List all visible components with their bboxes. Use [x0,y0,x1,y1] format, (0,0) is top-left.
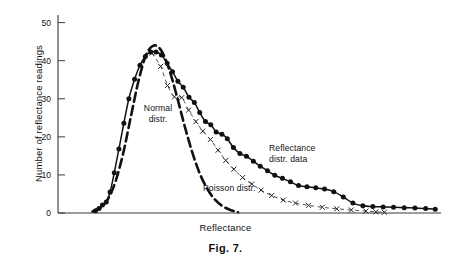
data-point [272,173,277,178]
reflectance-data-points [93,49,438,213]
y-axis-ticks [58,23,65,213]
poisson-x-marker [231,167,236,172]
data-point [214,129,219,134]
plot-area [0,0,451,266]
annotation-poisson-distr: Poisson distr. [203,183,256,194]
data-point [296,183,301,188]
data-point [154,49,159,54]
poisson-x-marker [165,83,170,88]
poisson-x-marker [382,210,387,215]
data-point [137,63,142,68]
poisson-x-marker [172,94,177,99]
data-point [170,69,175,74]
data-point [104,199,109,204]
data-point [280,176,285,181]
data-point [350,201,355,206]
data-point [225,136,230,141]
data-point [322,187,327,192]
data-point [192,100,197,105]
data-point [181,85,186,90]
data-point [304,184,309,189]
data-point [251,159,256,164]
data-point [381,204,386,209]
data-point [244,154,249,159]
reflectance-fit-curve [96,51,436,210]
data-point [143,54,148,59]
data-point [203,119,208,124]
data-point [313,185,318,190]
data-point [148,49,153,54]
data-point [391,205,396,210]
data-point [132,77,137,82]
poisson-x-marker [281,198,286,203]
data-point [186,95,191,100]
data-point [165,61,170,66]
data-point [402,205,407,210]
data-point [433,207,438,212]
data-point [219,132,224,137]
figure-container: Number of reflectance readings Reflectan… [0,0,451,266]
annotation-reflectance-distr-data: Reflectance distr. data [269,143,315,164]
data-point [175,79,180,84]
data-point [288,179,293,184]
data-point [126,96,131,101]
data-point [360,203,365,208]
poisson-distribution-markers [149,51,386,215]
poisson-x-marker [179,95,184,100]
poisson-x-marker [200,129,205,134]
data-point [197,110,202,115]
poisson-x-marker [216,148,221,153]
data-point [231,145,236,150]
data-point [258,164,263,169]
data-point [121,121,126,126]
poisson-x-marker [258,188,263,193]
data-point [423,206,428,211]
data-point [208,122,213,127]
data-point [116,147,121,152]
data-point [112,170,117,175]
data-point [108,190,113,195]
data-point [370,204,375,209]
data-point [341,195,346,200]
poisson-x-marker [208,137,213,142]
data-point [159,52,164,57]
data-point [237,151,242,156]
data-point [265,168,270,173]
data-point [331,189,336,194]
poisson-x-marker [240,175,245,180]
data-point [412,206,417,211]
poisson-x-marker [269,193,274,198]
poisson-x-marker [223,158,228,163]
poisson-x-marker [158,64,163,69]
poisson-x-marker [193,119,198,124]
annotation-normal-distr: Normal distr. [131,103,185,124]
poisson-x-marker [186,108,191,113]
